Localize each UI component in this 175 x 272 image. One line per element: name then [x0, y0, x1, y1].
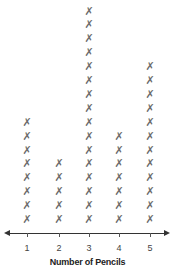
x-mark-icon: ✗ [144, 200, 156, 212]
x-mark-icon: ✗ [113, 186, 125, 198]
x-mark-icon: ✗ [144, 214, 156, 226]
x-mark-icon: ✗ [21, 145, 33, 157]
tick-label: 2 [52, 243, 66, 253]
x-mark-icon: ✗ [83, 33, 95, 45]
x-mark-icon: ✗ [21, 214, 33, 226]
tick-label: 4 [112, 243, 126, 253]
x-axis-title: Number of Pencils [0, 257, 175, 267]
x-mark-icon: ✗ [113, 172, 125, 184]
x-mark-icon: ✗ [113, 200, 125, 212]
x-mark-icon: ✗ [53, 158, 65, 170]
x-mark-icon: ✗ [113, 158, 125, 170]
number-line-axis [8, 233, 166, 234]
x-mark-icon: ✗ [113, 145, 125, 157]
x-mark-icon: ✗ [83, 172, 95, 184]
x-mark-icon: ✗ [144, 145, 156, 157]
x-mark-icon: ✗ [83, 145, 95, 157]
x-mark-icon: ✗ [53, 186, 65, 198]
x-mark-icon: ✗ [83, 6, 95, 18]
x-mark-icon: ✗ [83, 117, 95, 129]
x-mark-icon: ✗ [21, 186, 33, 198]
x-mark-icon: ✗ [21, 117, 33, 129]
x-mark-icon: ✗ [21, 131, 33, 143]
tick-label: 1 [20, 243, 34, 253]
axis-tick [89, 233, 90, 237]
x-mark-icon: ✗ [144, 103, 156, 115]
x-mark-icon: ✗ [53, 214, 65, 226]
x-mark-icon: ✗ [83, 19, 95, 31]
x-mark-icon: ✗ [21, 158, 33, 170]
x-mark-icon: ✗ [144, 131, 156, 143]
tick-label: 3 [82, 243, 96, 253]
x-mark-icon: ✗ [83, 158, 95, 170]
x-mark-icon: ✗ [113, 131, 125, 143]
axis-arrow-right-icon [164, 230, 170, 236]
x-mark-icon: ✗ [53, 172, 65, 184]
axis-tick [150, 233, 151, 237]
x-mark-icon: ✗ [83, 200, 95, 212]
x-mark-icon: ✗ [144, 117, 156, 129]
x-mark-icon: ✗ [83, 61, 95, 73]
x-mark-icon: ✗ [83, 186, 95, 198]
tick-label: 5 [143, 243, 157, 253]
x-mark-icon: ✗ [144, 158, 156, 170]
x-mark-icon: ✗ [83, 214, 95, 226]
line-plot: ✗✗✗✗✗✗✗✗✗✗✗✗✗✗✗✗✗✗✗✗✗✗✗✗✗✗✗✗✗✗✗✗✗✗✗✗✗✗✗✗… [0, 0, 175, 272]
x-mark-icon: ✗ [83, 75, 95, 87]
x-mark-icon: ✗ [21, 200, 33, 212]
x-mark-icon: ✗ [83, 47, 95, 59]
x-mark-icon: ✗ [144, 89, 156, 101]
axis-tick [59, 233, 60, 237]
x-mark-icon: ✗ [83, 103, 95, 115]
axis-tick [119, 233, 120, 237]
x-mark-icon: ✗ [83, 89, 95, 101]
x-mark-icon: ✗ [113, 214, 125, 226]
x-mark-icon: ✗ [83, 131, 95, 143]
axis-tick [27, 233, 28, 237]
x-mark-icon: ✗ [144, 75, 156, 87]
x-mark-icon: ✗ [144, 172, 156, 184]
x-mark-icon: ✗ [53, 200, 65, 212]
x-mark-icon: ✗ [144, 61, 156, 73]
x-mark-icon: ✗ [144, 186, 156, 198]
x-mark-icon: ✗ [21, 172, 33, 184]
